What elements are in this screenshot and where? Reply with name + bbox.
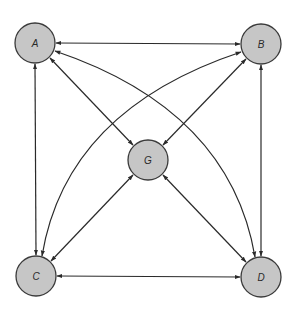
node-c-label: C <box>32 271 40 282</box>
edge-a-c <box>35 64 36 255</box>
node-g-label: G <box>144 155 152 166</box>
edge-a-g <box>50 58 133 145</box>
node-b: B <box>241 24 281 64</box>
node-b-label: B <box>258 39 265 50</box>
edge-c-d <box>57 276 240 277</box>
node-a: A <box>15 23 55 63</box>
node-g: G <box>128 140 168 180</box>
graph-diagram: A B G C D <box>0 0 296 315</box>
node-a-label: A <box>31 38 39 49</box>
node-d: D <box>241 257 281 297</box>
node-c: C <box>16 256 56 296</box>
edge-a-b <box>56 43 240 44</box>
edge-d-g <box>163 175 246 262</box>
edge-b-g <box>163 59 246 145</box>
node-d-label: D <box>257 272 264 283</box>
